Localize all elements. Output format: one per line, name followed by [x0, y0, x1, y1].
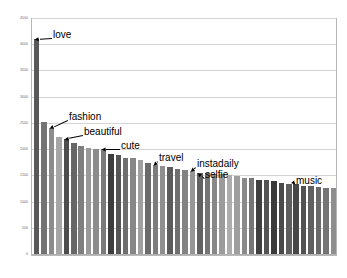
bar	[41, 122, 46, 254]
gridline-4500	[32, 18, 336, 19]
bar	[78, 146, 83, 254]
bar	[167, 167, 172, 254]
bar	[197, 173, 202, 254]
bar	[219, 174, 224, 254]
bar	[182, 170, 187, 254]
bar	[93, 149, 98, 254]
bar	[212, 174, 217, 254]
y-tick-label-3500: 3500	[2, 69, 28, 73]
bar	[138, 160, 143, 254]
bar-chart: 050010001500200025003000350040004500 lov…	[0, 0, 347, 278]
y-tick-label-2000: 2000	[2, 148, 28, 152]
bar	[316, 187, 321, 254]
annotation-label-beautiful: beautiful	[84, 127, 122, 137]
bar	[264, 180, 269, 254]
annotation-label-cute: cute	[121, 141, 140, 151]
bar	[227, 175, 232, 254]
annotation-label-fashion: fashion	[69, 112, 101, 122]
bar	[331, 188, 336, 254]
annotation-leader-line-cute	[106, 149, 120, 150]
bar	[279, 183, 284, 254]
annotation-label-instadaily: instadaily	[197, 159, 239, 169]
y-tick-label-1500: 1500	[2, 174, 28, 178]
annotation-label-love: love	[53, 30, 71, 40]
bar	[175, 169, 180, 254]
bar	[190, 171, 195, 254]
bar	[145, 163, 150, 254]
bar	[160, 166, 165, 254]
bar	[293, 184, 298, 254]
bar	[34, 39, 39, 254]
bar	[130, 158, 135, 254]
annotation-label-selfie: selfie	[205, 170, 228, 180]
bar	[249, 178, 254, 254]
bar	[256, 180, 261, 254]
bar	[234, 176, 239, 254]
y-tick-label-3000: 3000	[2, 96, 28, 100]
annotation-arrow-icon-cute	[101, 147, 105, 151]
y-tick-label-500: 500	[2, 227, 28, 231]
y-tick-label-4500: 4500	[2, 17, 28, 21]
bar	[286, 184, 291, 254]
bar	[108, 154, 113, 254]
bar	[49, 128, 54, 254]
bar	[116, 155, 121, 254]
annotation-arrow-icon-love	[35, 37, 39, 41]
y-tick-label-4000: 4000	[2, 43, 28, 47]
annotation-arrow-icon-beautiful	[64, 136, 69, 141]
bars-container	[33, 20, 335, 254]
bar	[86, 148, 91, 254]
bar	[205, 173, 210, 254]
bar	[153, 165, 158, 254]
gridline-0	[32, 254, 336, 255]
bar	[101, 149, 106, 254]
bar	[323, 188, 328, 254]
bar	[308, 186, 313, 254]
bar	[123, 158, 128, 254]
annotation-label-travel: travel	[159, 153, 183, 163]
bar	[301, 186, 306, 254]
bar	[71, 143, 76, 254]
bar	[271, 181, 276, 254]
y-tick-label-2500: 2500	[2, 122, 28, 126]
bar	[64, 139, 69, 254]
y-tick-label-1000: 1000	[2, 201, 28, 205]
annotation-label-music: music	[296, 176, 322, 186]
bar	[56, 137, 61, 254]
y-tick-label-0: 0	[2, 253, 28, 257]
bar	[242, 178, 247, 254]
